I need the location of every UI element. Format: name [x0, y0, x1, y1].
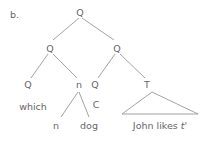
node-right-left: Q: [91, 79, 98, 90]
yield-text: John likes: [132, 120, 181, 131]
edge-left-leftleft: [31, 54, 48, 78]
edge-root-right: [82, 18, 114, 40]
node-left-right: n: [76, 79, 82, 90]
node-left-left: Q: [24, 79, 31, 90]
node-right: Q: [113, 43, 120, 54]
triangle-yield: [122, 92, 198, 114]
node-left: Q: [46, 43, 53, 54]
word-dog: dog: [80, 120, 98, 131]
node-right-right: T: [143, 79, 150, 90]
edge-root-left: [53, 18, 79, 40]
edge-n-n: [61, 92, 78, 117]
edge-left-leftright: [53, 54, 77, 78]
edge-n-dog: [79, 92, 89, 117]
panel-label: b.: [10, 9, 19, 20]
syntax-tree: b. Q Q Q Q n Q T which C n dog John like…: [0, 0, 210, 142]
yield-john-likes: John likes t': [132, 120, 187, 131]
node-n-leaf: n: [53, 120, 59, 131]
node-root: Q: [76, 7, 83, 18]
trace-t: t': [181, 120, 187, 131]
edge-right-rightleft: [98, 54, 115, 78]
word-which: which: [19, 101, 47, 112]
word-c: C: [93, 99, 100, 110]
edge-right-rightright: [120, 54, 145, 78]
